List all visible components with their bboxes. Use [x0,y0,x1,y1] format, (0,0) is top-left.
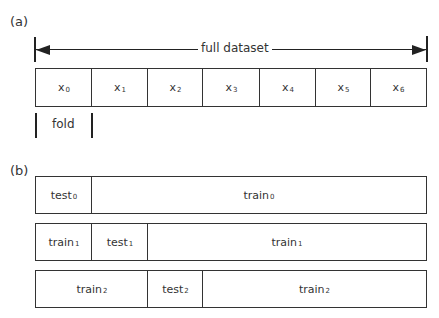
cell-base: x [226,81,233,94]
span-right-bar [426,36,428,62]
segment-base: train [76,283,102,296]
segment-sub: 2 [184,287,188,295]
dataset-cell: x0 [35,68,93,107]
segment-base: test [162,283,183,296]
cell-sub: 2 [177,86,181,94]
segment-sub: 1 [75,240,79,248]
train-segment: train2 [202,270,427,308]
full-dataset-label: full dataset [198,41,272,55]
dataset-cell: x6 [370,68,427,107]
segment-base: test [51,189,72,202]
segment-base: train [243,189,269,202]
segment-base: test [107,236,128,249]
cell-sub: 6 [400,86,404,94]
test-segment: test2 [147,270,204,308]
segment-sub: 0 [270,193,274,201]
segment-sub: 0 [73,193,77,201]
cell-sub: 4 [290,86,294,94]
segment-sub: 1 [298,240,302,248]
test-segment: test0 [35,176,93,214]
train-segment: train1 [35,223,93,261]
arrow-right-icon [412,44,426,56]
cell-base: x [58,81,65,94]
fold-right-bar [91,113,93,138]
train-segment: train2 [35,270,149,308]
dataset-cell: x1 [91,68,149,107]
cell-sub: 3 [233,86,237,94]
segment-base: train [271,236,297,249]
test-segment: test1 [91,223,149,261]
train-segment: train0 [91,176,427,214]
segment-base: train [48,236,74,249]
fold-label: fold [52,117,75,131]
cell-sub: 0 [66,86,70,94]
fold-left-bar [35,113,37,138]
cell-base: x [114,81,121,94]
arrow-left-icon [36,44,50,56]
segment-base: train [299,283,325,296]
dataset-cell: x5 [315,68,372,107]
train-segment: train1 [147,223,427,261]
cell-base: x [338,81,345,94]
cell-sub: 1 [122,86,126,94]
dataset-cell: x2 [147,68,204,107]
segment-sub: 2 [103,287,107,295]
panel-b-label: (b) [10,163,28,178]
cell-base: x [170,81,177,94]
segment-sub: 2 [326,287,330,295]
segment-sub: 1 [129,240,133,248]
cell-sub: 5 [345,86,349,94]
dataset-cell: x3 [202,68,261,107]
panel-a-label: (a) [10,14,28,29]
cell-base: x [282,81,289,94]
cell-base: x [393,81,400,94]
dataset-cell: x4 [259,68,317,107]
